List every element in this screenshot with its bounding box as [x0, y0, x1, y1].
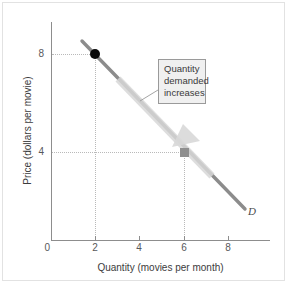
callout-leader-line	[140, 90, 158, 101]
annotation-line-1: Quantity	[164, 63, 201, 75]
data-point-marker-a	[90, 49, 100, 59]
data-point-marker-b	[180, 148, 189, 157]
x-axis-title: Quantity (movies per month)	[51, 262, 270, 273]
y-axis-title: Price (dollars per movie)	[22, 31, 33, 231]
demand-curve-figure: 0 2 4 6 8 8 4 Quantity demanded increase…	[0, 0, 287, 283]
annotation-callout-box: Quantity demanded increases	[158, 59, 206, 104]
annotation-line-3: increases	[164, 87, 201, 99]
plot-area: 0 2 4 6 8 8 4 Quantity demanded increase…	[0, 0, 287, 283]
annotation-line-2: demanded	[164, 75, 201, 87]
demand-curve-label: D	[248, 205, 256, 217]
demand-curve-graphics	[0, 0, 287, 283]
